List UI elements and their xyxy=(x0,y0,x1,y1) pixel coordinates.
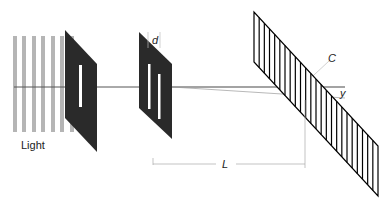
slit-separation-label: d xyxy=(152,34,159,46)
screen-label: C xyxy=(328,52,336,64)
slit-2 xyxy=(158,74,161,119)
distance-label: L xyxy=(222,158,228,170)
screen xyxy=(254,12,378,196)
double-slit-diagram: d L Light C y xyxy=(0,0,391,208)
single-slit xyxy=(79,65,82,107)
light-bars xyxy=(13,36,74,132)
double-slit-plate xyxy=(139,32,172,139)
displacement-label: y xyxy=(339,87,347,99)
single-slit-plate xyxy=(65,30,97,152)
light-label: Light xyxy=(21,139,45,151)
slit-1 xyxy=(148,64,151,109)
